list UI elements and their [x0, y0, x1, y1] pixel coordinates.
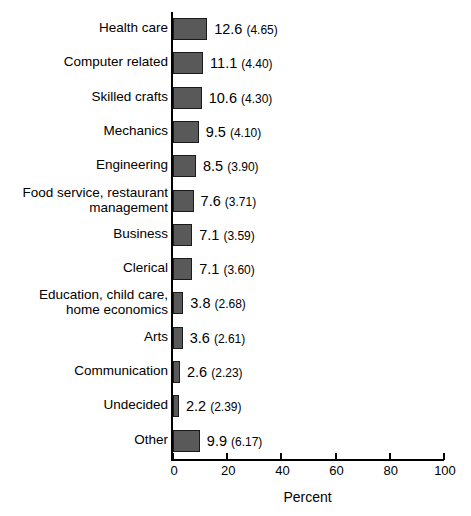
category-label: Arts [0, 329, 168, 344]
bar-value-mean: 12.6 [214, 21, 246, 37]
bar-value-mean: 7.1 [199, 227, 223, 243]
bar-value-mean: 7.1 [199, 261, 223, 277]
bar-value-sd: (4.65) [246, 23, 277, 37]
bar [173, 52, 203, 74]
x-tick [280, 453, 282, 460]
bar-value-label: 2.6 (2.23) [187, 362, 243, 383]
category-label: Food service, restaurant management [0, 185, 168, 215]
bar-value-sd: (3.59) [223, 229, 254, 243]
bar-row: Engineering8.5 (3.90) [0, 149, 471, 183]
bar-row: Other9.9 (6.17) [0, 424, 471, 458]
bar [173, 155, 196, 177]
x-tick [443, 453, 445, 460]
bar [173, 87, 202, 109]
x-tick [389, 453, 391, 460]
bar-value-label: 10.6 (4.30) [209, 88, 273, 109]
bar-value-mean: 2.6 [187, 364, 211, 380]
bar-value-sd: (2.39) [210, 400, 241, 414]
bar [173, 18, 207, 40]
bar [173, 258, 192, 280]
bar-row: Arts3.6 (2.61) [0, 321, 471, 355]
bar-value-sd: (4.40) [241, 57, 272, 71]
plot-area: Health care12.6 (4.65)Computer related11… [0, 0, 471, 516]
bar-value-sd: (2.61) [214, 332, 245, 346]
bar-value-label: 11.1 (4.40) [210, 53, 273, 74]
x-tick-label: 0 [144, 463, 204, 478]
x-tick [335, 453, 337, 460]
bar-value-label: 7.1 (3.60) [199, 259, 255, 280]
bar-value-label: 9.5 (4.10) [206, 122, 262, 143]
bar [173, 395, 179, 417]
x-tick [172, 453, 174, 460]
bar-value-sd: (4.10) [230, 126, 261, 140]
bar-row: Business7.1 (3.59) [0, 218, 471, 252]
bar-row: Undecided2.2 (2.39) [0, 389, 471, 423]
bar-value-mean: 9.9 [207, 433, 231, 449]
bar-value-mean: 7.6 [201, 193, 225, 209]
bar-value-sd: (2.23) [211, 366, 242, 380]
x-axis-line [171, 459, 444, 461]
bar-value-sd: (4.30) [241, 92, 272, 106]
bar [173, 327, 183, 349]
category-label: Other [0, 432, 168, 447]
bar-value-mean: 10.6 [209, 90, 241, 106]
bar-value-label: 2.2 (2.39) [186, 396, 242, 417]
bar-value-label: 12.6 (4.65) [214, 19, 278, 40]
bar [173, 361, 180, 383]
bar-value-sd: (3.90) [227, 160, 258, 174]
bar-value-label: 7.6 (3.71) [201, 191, 257, 212]
category-label: Business [0, 226, 168, 241]
bar-row: Computer related11.1 (4.40) [0, 46, 471, 80]
category-label: Health care [0, 20, 168, 35]
bar-value-label: 8.5 (3.90) [203, 156, 259, 177]
bar-value-sd: (6.17) [231, 435, 262, 449]
category-label: Communication [0, 363, 168, 378]
category-label: Computer related [0, 54, 168, 69]
bar [173, 430, 200, 452]
x-tick-label: 80 [361, 463, 421, 478]
x-tick-label: 100 [415, 463, 471, 478]
bar-value-mean: 3.8 [190, 295, 214, 311]
bar-value-label: 9.9 (6.17) [207, 431, 263, 452]
x-tick-label: 40 [252, 463, 312, 478]
bar-value-mean: 11.1 [210, 55, 241, 71]
category-label: Skilled crafts [0, 89, 168, 104]
category-label: Undecided [0, 397, 168, 412]
bar-value-sd: (3.71) [225, 195, 256, 209]
x-tick-label: 60 [307, 463, 367, 478]
category-label: Clerical [0, 260, 168, 275]
bar-value-sd: (3.60) [223, 263, 254, 277]
x-tick-label: 20 [198, 463, 258, 478]
bar-row: Health care12.6 (4.65) [0, 12, 471, 46]
bar-value-mean: 8.5 [203, 158, 227, 174]
x-tick [226, 453, 228, 460]
x-axis-title: Percent [171, 489, 444, 505]
bar-value-mean: 9.5 [206, 124, 230, 140]
bar-value-sd: (2.68) [214, 297, 245, 311]
bar-row: Education, child care, home economics3.8… [0, 286, 471, 320]
bar-value-label: 7.1 (3.59) [199, 225, 255, 246]
bar-value-label: 3.8 (2.68) [190, 293, 246, 314]
bar-row: Mechanics9.5 (4.10) [0, 115, 471, 149]
category-label: Mechanics [0, 123, 168, 138]
bar-row: Food service, restaurant management7.6 (… [0, 184, 471, 218]
bar-value-label: 3.6 (2.61) [190, 328, 246, 349]
bar-chart: Health care12.6 (4.65)Computer related11… [0, 0, 471, 516]
bar-row: Skilled crafts10.6 (4.30) [0, 81, 471, 115]
bar-value-mean: 3.6 [190, 330, 214, 346]
category-label: Engineering [0, 157, 168, 172]
category-label: Education, child care, home economics [0, 287, 168, 317]
bar-row: Clerical7.1 (3.60) [0, 252, 471, 286]
bar [173, 292, 183, 314]
bar [173, 190, 194, 212]
bar [173, 121, 199, 143]
bar-row: Communication2.6 (2.23) [0, 355, 471, 389]
bar-value-mean: 2.2 [186, 398, 210, 414]
bar [173, 224, 192, 246]
